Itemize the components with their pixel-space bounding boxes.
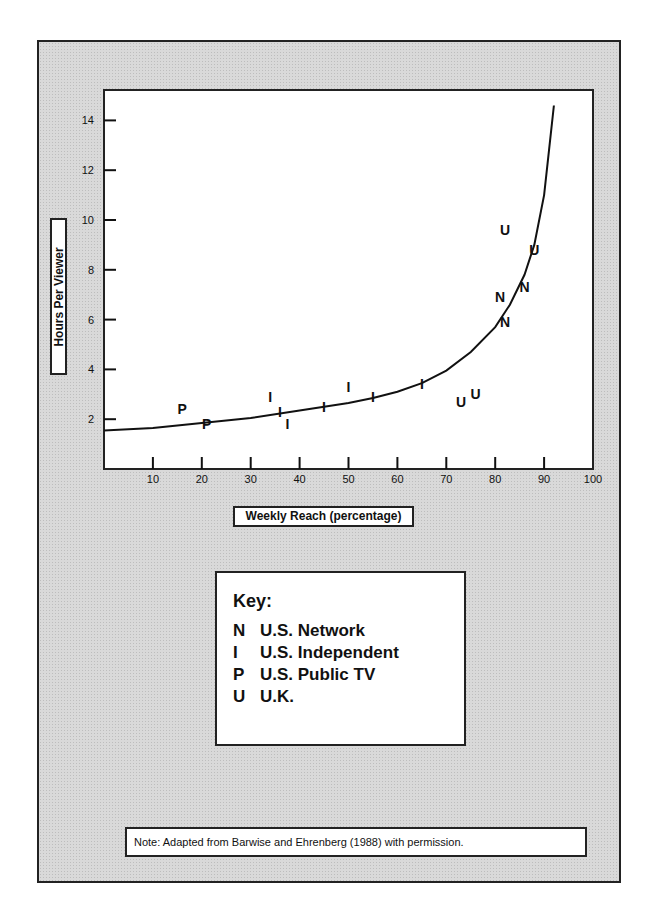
y-axis-label: Hours Per Viewer bbox=[50, 218, 67, 375]
y-tick-label: 8 bbox=[88, 264, 94, 276]
legend-item: IU.S. Independent bbox=[233, 642, 464, 664]
y-axis-label-text: Hours Per Viewer bbox=[52, 247, 66, 346]
data-point: P bbox=[178, 401, 187, 417]
legend-item: PU.S. Public TV bbox=[233, 664, 464, 686]
y-tick-label: 2 bbox=[88, 413, 94, 425]
y-tick-label: 6 bbox=[88, 314, 94, 326]
fitted-curve bbox=[104, 106, 554, 431]
x-tick-label: 10 bbox=[147, 473, 159, 485]
y-tick-label: 12 bbox=[82, 164, 94, 176]
legend-symbol: P bbox=[233, 664, 260, 686]
legend-label: U.K. bbox=[260, 686, 294, 708]
data-point: I bbox=[420, 376, 424, 392]
legend-symbol: N bbox=[233, 620, 260, 642]
data-point: U bbox=[529, 242, 539, 258]
x-tick-label: 80 bbox=[489, 473, 501, 485]
x-tick-label: 100 bbox=[584, 473, 602, 485]
data-point: U bbox=[471, 386, 481, 402]
data-point: N bbox=[519, 279, 529, 295]
legend-label: U.S. Independent bbox=[260, 642, 399, 664]
x-tick-label: 40 bbox=[293, 473, 305, 485]
source-note: Note: Adapted from Barwise and Ehrenberg… bbox=[125, 827, 587, 857]
x-tick-label: 60 bbox=[391, 473, 403, 485]
x-tick-label: 70 bbox=[440, 473, 452, 485]
legend-symbol: U bbox=[233, 686, 260, 708]
data-point: N bbox=[500, 314, 510, 330]
data-point: I bbox=[371, 389, 375, 405]
data-point: I bbox=[268, 389, 272, 405]
y-tick-label: 10 bbox=[82, 214, 94, 226]
legend-title: Key: bbox=[233, 591, 464, 612]
chart-svg: 1020304050607080901002468101214NNNIIIIII… bbox=[0, 0, 651, 918]
legend: Key: NU.S. Network IU.S. Independent PU.… bbox=[215, 571, 466, 746]
legend-item: NU.S. Network bbox=[233, 620, 464, 642]
y-tick-label: 4 bbox=[88, 363, 94, 375]
x-tick-label: 90 bbox=[538, 473, 550, 485]
data-point: U bbox=[456, 394, 466, 410]
data-point: I bbox=[347, 379, 351, 395]
data-point: U bbox=[500, 222, 510, 238]
data-point: N bbox=[495, 289, 505, 305]
x-tick-label: 30 bbox=[245, 473, 257, 485]
x-tick-label: 20 bbox=[196, 473, 208, 485]
legend-symbol: I bbox=[233, 642, 260, 664]
y-tick-label: 14 bbox=[82, 114, 94, 126]
data-point: I bbox=[278, 404, 282, 420]
legend-label: U.S. Public TV bbox=[260, 664, 375, 686]
data-point: I bbox=[322, 399, 326, 415]
data-point: P bbox=[202, 416, 211, 432]
x-axis-label: Weekly Reach (percentage) bbox=[233, 506, 414, 527]
legend-item: UU.K. bbox=[233, 686, 464, 708]
data-point: I bbox=[285, 416, 289, 432]
legend-label: U.S. Network bbox=[260, 620, 365, 642]
x-tick-label: 50 bbox=[342, 473, 354, 485]
